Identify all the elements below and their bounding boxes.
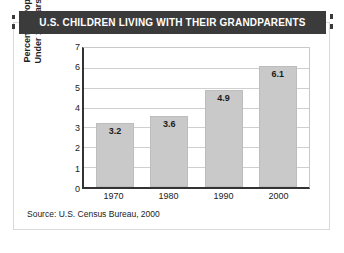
bar-slot: 3.6 xyxy=(142,48,196,187)
banner-fleck xyxy=(12,15,15,19)
bar-value-label: 3.2 xyxy=(109,127,122,186)
y-tick-label: 1 xyxy=(64,164,80,173)
banner-fleck xyxy=(330,24,333,29)
bar-value-label: 3.6 xyxy=(163,120,176,186)
bar-series: 3.2 3.6 4.9 6.1 xyxy=(84,48,309,187)
plot-area: 3.2 3.6 4.9 6.1 xyxy=(82,47,310,189)
bar-1980: 3.6 xyxy=(150,116,188,187)
bar-2000: 6.1 xyxy=(259,66,297,187)
bar-1970: 3.2 xyxy=(96,123,134,187)
chart-title-banner: U.S. CHILDREN LIVING WITH THEIR GRANDPAR… xyxy=(19,11,326,34)
chart-title: U.S. CHILDREN LIVING WITH THEIR GRANDPAR… xyxy=(39,18,305,28)
y-tick-label: 5 xyxy=(64,83,80,92)
x-tick-label: 1970 xyxy=(86,192,141,201)
bar-chart: Percent of Population Under 18 Years of … xyxy=(14,23,329,229)
bar-slot: 6.1 xyxy=(251,48,305,187)
y-axis-tick-labels: 7 6 5 4 3 2 1 0 xyxy=(64,47,80,189)
banner-body: U.S. CHILDREN LIVING WITH THEIR GRANDPAR… xyxy=(25,11,320,34)
x-tick-label: 1990 xyxy=(196,192,251,201)
y-tick-label: 3 xyxy=(64,124,80,133)
x-axis-tick-labels: 1970 1980 1990 2000 xyxy=(82,192,310,201)
y-tick-label: 2 xyxy=(64,144,80,153)
bar-value-label: 4.9 xyxy=(217,94,230,186)
y-tick-label: 6 xyxy=(64,63,80,72)
bar-slot: 3.2 xyxy=(88,48,142,187)
y-tick-label: 4 xyxy=(64,103,80,112)
banner-fleck xyxy=(330,14,333,19)
source-note: Source: U.S. Census Bureau, 2000 xyxy=(27,210,160,219)
y-tick-label: 7 xyxy=(64,43,80,52)
y-tick-label: 0 xyxy=(64,185,80,194)
bar-slot: 4.9 xyxy=(197,48,251,187)
chart-figure-panel: Percent of Population Under 18 Years of … xyxy=(13,22,330,230)
bar-value-label: 6.1 xyxy=(272,70,285,186)
banner-fleck xyxy=(12,24,15,29)
x-tick-label: 2000 xyxy=(251,192,306,201)
bar-1990: 4.9 xyxy=(205,90,243,187)
x-tick-label: 1980 xyxy=(141,192,196,201)
